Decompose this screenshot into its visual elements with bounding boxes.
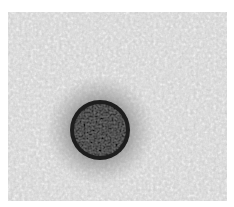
micrograph-image bbox=[8, 12, 227, 201]
micrograph-render bbox=[8, 12, 227, 201]
